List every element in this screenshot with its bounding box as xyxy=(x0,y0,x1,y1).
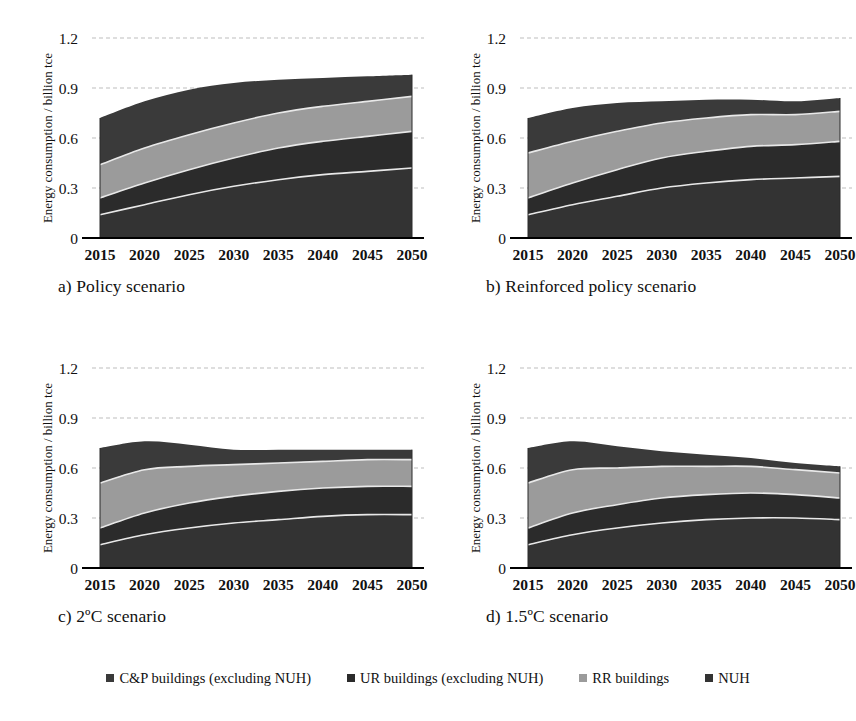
svg-text:1.2: 1.2 xyxy=(487,360,506,377)
svg-text:2035: 2035 xyxy=(691,246,722,263)
svg-text:2050: 2050 xyxy=(825,576,856,593)
svg-text:0.6: 0.6 xyxy=(487,130,507,147)
chart-legend: C&P buildings (excluding NUH) UR buildin… xyxy=(0,658,856,698)
svg-text:2020: 2020 xyxy=(129,246,160,263)
panel-d: 00.30.60.91.2201520202025203020352040204… xyxy=(428,330,856,660)
svg-text:1.2: 1.2 xyxy=(59,360,78,377)
svg-text:0: 0 xyxy=(70,230,78,247)
svg-text:2025: 2025 xyxy=(602,246,633,263)
svg-text:0: 0 xyxy=(498,230,506,247)
svg-text:2040: 2040 xyxy=(735,576,766,593)
legend-item-nuh: NUH xyxy=(705,670,749,687)
svg-text:2045: 2045 xyxy=(352,576,383,593)
svg-text:2020: 2020 xyxy=(557,246,588,263)
legend-swatch-nuh-icon xyxy=(705,674,713,682)
svg-text:1.2: 1.2 xyxy=(59,30,78,47)
svg-text:0: 0 xyxy=(70,560,78,577)
svg-text:0.9: 0.9 xyxy=(487,410,507,427)
svg-text:Energy consumption / billion t: Energy consumption / billion tce xyxy=(468,383,483,553)
legend-item-ur: UR buildings (excluding NUH) xyxy=(347,670,543,687)
legend-label-cp: C&P buildings (excluding NUH) xyxy=(119,670,311,687)
svg-text:0.3: 0.3 xyxy=(59,510,79,527)
svg-text:2025: 2025 xyxy=(174,576,205,593)
svg-text:0.3: 0.3 xyxy=(487,510,507,527)
svg-text:2030: 2030 xyxy=(646,576,677,593)
svg-text:Energy consumption / billion t: Energy consumption / billion tce xyxy=(40,383,55,553)
panel-b: 00.30.60.91.2201520202025203020352040204… xyxy=(428,0,856,330)
chart-b: 00.30.60.91.2201520202025203020352040204… xyxy=(428,0,856,268)
legend-item-cp: C&P buildings (excluding NUH) xyxy=(106,670,311,687)
svg-text:0.3: 0.3 xyxy=(487,180,507,197)
svg-text:Energy consumption / billion t: Energy consumption / billion tce xyxy=(40,53,55,223)
chart-c: 00.30.60.91.2201520202025203020352040204… xyxy=(0,330,428,598)
svg-text:0.9: 0.9 xyxy=(59,80,79,97)
svg-text:2045: 2045 xyxy=(780,246,811,263)
svg-text:2040: 2040 xyxy=(307,576,338,593)
chart-a: 00.30.60.91.2201520202025203020352040204… xyxy=(0,0,428,268)
svg-text:2030: 2030 xyxy=(646,246,677,263)
svg-text:2050: 2050 xyxy=(397,246,428,263)
panel-c: 00.30.60.91.2201520202025203020352040204… xyxy=(0,330,428,660)
svg-text:2015: 2015 xyxy=(513,576,544,593)
svg-text:1.2: 1.2 xyxy=(487,30,506,47)
svg-text:2040: 2040 xyxy=(735,246,766,263)
svg-text:2020: 2020 xyxy=(557,576,588,593)
panel-a: 00.30.60.91.2201520202025203020352040204… xyxy=(0,0,428,330)
svg-text:2050: 2050 xyxy=(397,576,428,593)
svg-text:2025: 2025 xyxy=(602,576,633,593)
svg-text:0.6: 0.6 xyxy=(487,460,507,477)
panel-b-caption: b) Reinforced policy scenario xyxy=(486,276,696,297)
legend-label-ur: UR buildings (excluding NUH) xyxy=(360,670,543,687)
svg-text:2020: 2020 xyxy=(129,576,160,593)
svg-text:2030: 2030 xyxy=(218,246,249,263)
svg-text:0.9: 0.9 xyxy=(487,80,507,97)
svg-text:0.6: 0.6 xyxy=(59,460,79,477)
chart-d: 00.30.60.91.2201520202025203020352040204… xyxy=(428,330,856,598)
svg-text:0.6: 0.6 xyxy=(59,130,79,147)
svg-text:0: 0 xyxy=(498,560,506,577)
legend-item-rr: RR buildings xyxy=(579,670,669,687)
svg-text:2030: 2030 xyxy=(218,576,249,593)
svg-text:2045: 2045 xyxy=(352,246,383,263)
svg-text:2015: 2015 xyxy=(513,246,544,263)
legend-label-nuh: NUH xyxy=(718,670,749,687)
svg-text:2025: 2025 xyxy=(174,246,205,263)
panel-d-caption: d) 1.5ºC scenario xyxy=(486,606,608,627)
svg-text:2035: 2035 xyxy=(691,576,722,593)
svg-text:2040: 2040 xyxy=(307,246,338,263)
legend-swatch-rr-icon xyxy=(579,674,587,682)
panel-c-caption: c) 2ºC scenario xyxy=(58,606,166,627)
svg-text:2015: 2015 xyxy=(85,576,116,593)
panel-a-caption: a) Policy scenario xyxy=(58,276,185,297)
svg-text:2015: 2015 xyxy=(85,246,116,263)
svg-text:0.9: 0.9 xyxy=(59,410,79,427)
legend-swatch-cp-icon xyxy=(106,674,114,682)
legend-swatch-ur-icon xyxy=(347,674,355,682)
figure-stacked-area-scenarios: 00.30.60.91.2201520202025203020352040204… xyxy=(0,0,856,721)
svg-text:Energy consumption / billion t: Energy consumption / billion tce xyxy=(468,53,483,223)
svg-text:0.3: 0.3 xyxy=(59,180,79,197)
svg-text:2035: 2035 xyxy=(263,246,294,263)
legend-label-rr: RR buildings xyxy=(592,670,669,687)
svg-text:2050: 2050 xyxy=(825,246,856,263)
svg-text:2045: 2045 xyxy=(780,576,811,593)
svg-text:2035: 2035 xyxy=(263,576,294,593)
